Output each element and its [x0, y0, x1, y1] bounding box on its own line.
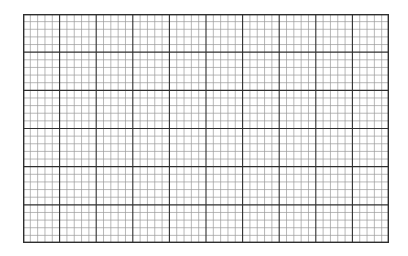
grid-lines: [23, 14, 389, 243]
graph-paper-grid: [23, 14, 389, 243]
